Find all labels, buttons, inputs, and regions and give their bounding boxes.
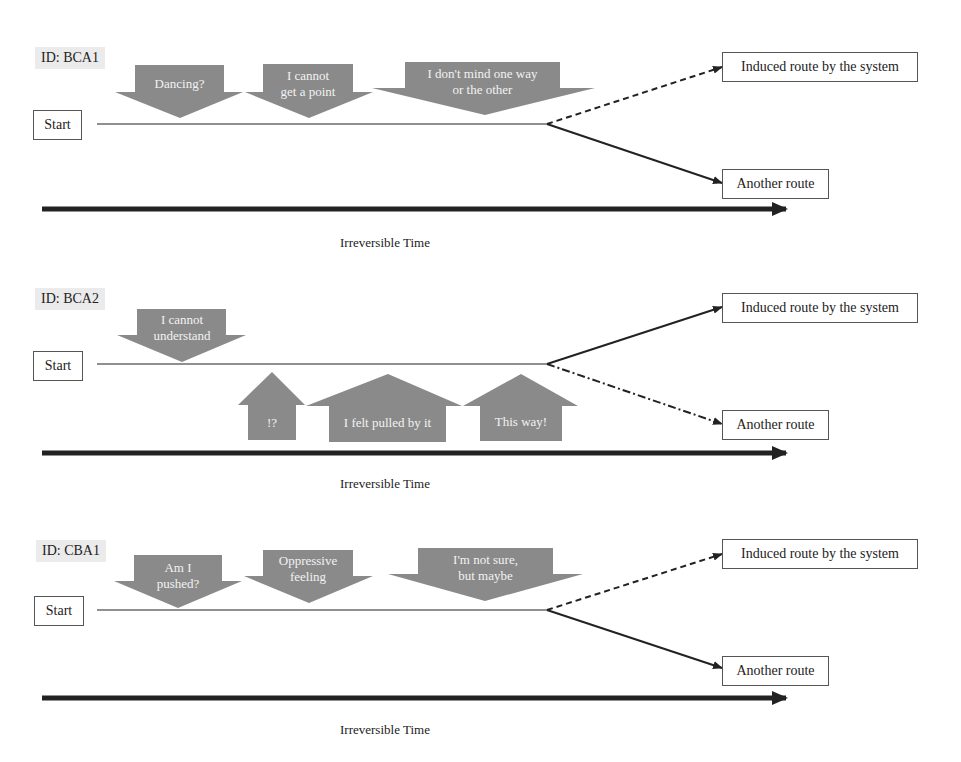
callout-text: Oppressive feeling [263, 553, 353, 585]
start-box: Start [33, 110, 82, 140]
another-route-box: Another route [722, 410, 829, 440]
start-box: Start [34, 596, 84, 626]
callout-text: I don't mind one way or the other [395, 66, 570, 98]
diagram-graphics [0, 0, 961, 762]
callout-text: I'm not sure, but maybe [418, 552, 553, 584]
induced-route-line [547, 554, 722, 610]
callout-text: Am I pushed? [134, 560, 222, 592]
callout-text: Dancing? [135, 76, 224, 92]
panel-id-label: ID: CBA1 [36, 540, 106, 562]
another-route-box: Another route [722, 656, 829, 686]
irreversible-time-label: Irreversible Time [340, 722, 430, 738]
irreversible-time-label: Irreversible Time [340, 476, 430, 492]
induced-route-box: Induced route by the system [722, 539, 918, 569]
start-box: Start [33, 351, 83, 381]
induced-route-box: Induced route by the system [722, 52, 918, 82]
up-arrow-this-way [463, 374, 578, 441]
irreversible-time-label: Irreversible Time [340, 235, 430, 251]
up-arrow-pulled [306, 374, 462, 442]
another-route-box: Another route [722, 169, 829, 199]
another-route-line [547, 124, 722, 183]
induced-route-box: Induced route by the system [722, 293, 918, 323]
callout-text: !? [248, 415, 296, 431]
induced-route-line [547, 67, 722, 124]
callout-text: This way! [480, 414, 562, 430]
induced-route-line [547, 307, 722, 364]
another-route-line [547, 610, 722, 668]
panel-id-label: ID: BCA1 [35, 47, 105, 69]
callout-text: I cannot understand [132, 312, 232, 344]
callout-text: I cannot get a point [258, 68, 358, 100]
callout-text: I felt pulled by it [329, 415, 446, 431]
another-route-line [547, 364, 722, 424]
panel-id-label: ID: BCA2 [35, 288, 105, 310]
